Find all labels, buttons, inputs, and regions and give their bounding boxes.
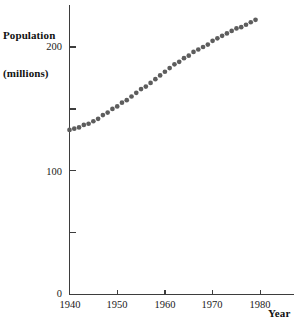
data-point <box>186 53 191 58</box>
data-point <box>81 123 86 128</box>
data-point <box>67 128 72 133</box>
data-point <box>148 81 153 86</box>
data-point <box>96 116 101 121</box>
data-point <box>215 36 220 41</box>
data-point <box>196 47 201 52</box>
data-point <box>253 17 258 22</box>
data-point <box>77 125 82 130</box>
data-point <box>139 87 144 92</box>
data-point <box>201 45 206 50</box>
data-point <box>229 29 234 34</box>
data-point <box>210 38 215 43</box>
data-point <box>115 104 120 109</box>
data-point <box>129 94 134 99</box>
data-point <box>244 22 249 27</box>
data-point <box>134 90 139 95</box>
data-point <box>225 31 230 36</box>
data-point <box>220 34 225 39</box>
data-point <box>153 77 158 82</box>
tick-marks <box>70 47 261 295</box>
data-point <box>158 73 163 78</box>
data-point <box>163 69 168 74</box>
data-point <box>101 113 106 118</box>
data-point <box>182 56 187 61</box>
data-point <box>177 60 182 65</box>
data-point <box>120 100 125 105</box>
data-point <box>167 66 172 71</box>
population-scatter-chart: Population (millions) Year 200 100 0 194… <box>0 0 307 327</box>
plot-area <box>0 0 307 327</box>
data-point-group <box>67 17 258 132</box>
data-point <box>205 42 210 47</box>
data-point <box>91 119 96 124</box>
data-point <box>105 110 110 115</box>
data-point <box>172 62 177 67</box>
data-point <box>143 84 148 89</box>
data-point <box>239 25 244 30</box>
data-point <box>234 26 239 31</box>
data-point <box>86 121 91 126</box>
data-point <box>72 126 77 131</box>
data-point <box>248 20 253 25</box>
data-point <box>191 50 196 55</box>
data-point <box>110 107 115 112</box>
data-point <box>124 98 129 103</box>
